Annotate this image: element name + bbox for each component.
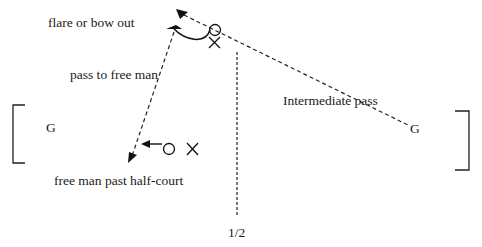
- intermediate-pass-line: [184, 15, 410, 126]
- defender-x-free: [187, 143, 198, 155]
- left-goal-label: G: [46, 121, 56, 135]
- pass-arrowhead-icon: [128, 152, 137, 163]
- flare-label: flare or bow out: [48, 16, 135, 30]
- free-man-arrowhead-icon: [141, 140, 150, 148]
- player-circle-top: [210, 25, 221, 36]
- player-circle-free: [164, 144, 175, 155]
- pass-to-free-man-line: [132, 32, 174, 156]
- free-man-label: free man past half-court: [54, 174, 183, 188]
- flare-curve: [174, 29, 210, 39]
- defender-x-top: [209, 37, 220, 48]
- half-court-label: 1/2: [228, 226, 245, 240]
- top-arrowhead-icon: [176, 9, 188, 19]
- pass-to-free-man-label: pass to free man: [70, 68, 158, 82]
- flare-arrow-icon: [166, 25, 182, 29]
- right-goal-label: G: [410, 122, 420, 136]
- intermediate-pass-label: Intermediate pass: [283, 94, 378, 108]
- left-goal-bracket: [13, 105, 25, 163]
- right-goal-bracket: [455, 111, 469, 170]
